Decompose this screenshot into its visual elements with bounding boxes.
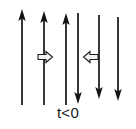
field-line-up-3 (62, 13, 69, 105)
time-label-caption: t<0 (0, 103, 136, 123)
physics-field-line-figure: t<0 (0, 0, 136, 129)
field-line-down-3 (114, 17, 121, 101)
field-line-up-1 (18, 9, 25, 105)
right-motion-arrow-left-icon (84, 52, 99, 63)
left-motion-arrow-right-icon (38, 52, 53, 63)
field-line-down-1 (74, 13, 81, 104)
motion-arrow-group (38, 52, 98, 63)
